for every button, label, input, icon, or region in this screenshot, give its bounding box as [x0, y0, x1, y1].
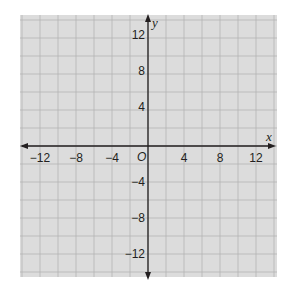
x-axis-label: x	[265, 129, 272, 144]
y-tick-label: −12	[125, 247, 146, 261]
y-tick-label: −8	[131, 211, 145, 225]
x-tick-label: 4	[181, 151, 188, 165]
x-tick-label: −4	[105, 151, 119, 165]
y-tick-label: −4	[131, 175, 145, 189]
x-tick-label: −8	[69, 151, 83, 165]
origin-label: O	[137, 150, 146, 164]
coordinate-plane: x y O −12 −8 −4 4 8 12 12 8 4 −4 −8 −12	[0, 0, 286, 294]
y-tick-label: 12	[132, 28, 146, 42]
x-tick-label: 8	[217, 151, 224, 165]
y-axis-label: y	[150, 15, 158, 30]
x-tick-label: −12	[30, 151, 51, 165]
x-tick-label: 12	[249, 151, 263, 165]
y-tick-label: 4	[138, 100, 145, 114]
y-tick-label: 8	[138, 64, 145, 78]
